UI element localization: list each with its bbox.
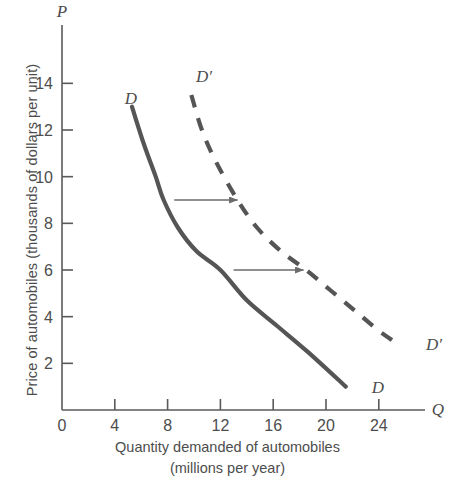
origin-tick-label: 0 — [58, 417, 67, 434]
x-axis-symbol: Q — [432, 400, 444, 419]
x-tick-label-12: 12 — [212, 417, 230, 434]
curve-label-d-bottom: D — [371, 378, 385, 397]
y-tick-label-4: 4 — [44, 309, 53, 326]
x-tick-label-20: 20 — [317, 417, 335, 434]
demand-curve-d — [132, 107, 346, 387]
y-axis-symbol: P — [56, 2, 67, 21]
x-axis-ticks — [115, 399, 379, 410]
plot-area: 2468101214 4812162024 0 P Q D D D′ D′ — [0, 0, 455, 435]
x-axis-caption: Quantity demanded of automobiles (millio… — [0, 437, 455, 479]
demand-curve-dprime — [191, 95, 392, 340]
y-axis-label: Price of automobiles (thousands of dolla… — [20, 20, 44, 440]
y-axis-ticks — [62, 83, 73, 363]
x-axis-caption-line2: (millions per year) — [0, 458, 455, 479]
x-tick-label-24: 24 — [370, 417, 388, 434]
shift-arrows — [174, 200, 303, 270]
x-tick-label-16: 16 — [264, 417, 282, 434]
demand-curve-figure: Price of automobiles (thousands of dolla… — [0, 0, 455, 483]
demand-curves — [132, 95, 392, 387]
x-tick-label-4: 4 — [110, 417, 119, 434]
curve-label-dprime-top: D′ — [195, 67, 212, 86]
y-axis-label-text: Price of automobiles (thousands of dolla… — [24, 64, 40, 396]
y-tick-label-8: 8 — [44, 215, 53, 232]
y-tick-label-6: 6 — [44, 262, 53, 279]
y-tick-label-2: 2 — [44, 355, 53, 372]
x-axis-caption-line1: Quantity demanded of automobiles — [0, 437, 455, 458]
curve-label-d-top: D — [124, 89, 138, 108]
x-tick-label-8: 8 — [163, 417, 172, 434]
x-axis-tick-labels: 4812162024 — [110, 417, 387, 434]
curve-label-dprime-bottom: D′ — [425, 335, 442, 354]
